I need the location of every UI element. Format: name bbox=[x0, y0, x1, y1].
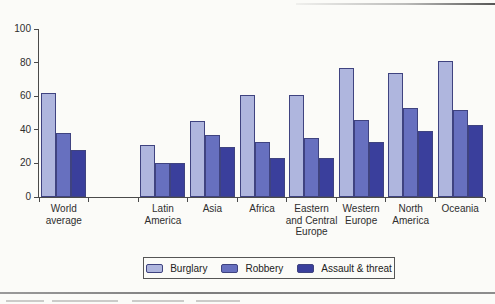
bar-assault-threat-oceania bbox=[468, 125, 483, 197]
bar-robbery-north-america bbox=[403, 108, 418, 197]
bar-assault-threat-western-europe bbox=[369, 142, 384, 197]
bar-robbery-eastern-and-central-europe bbox=[304, 138, 319, 197]
scan-artifact-top bbox=[296, 3, 495, 5]
x-axis-tick bbox=[237, 198, 238, 202]
x-axis-tick bbox=[39, 198, 40, 202]
bar-burglary-oceania bbox=[438, 61, 453, 197]
bar-robbery-world-average bbox=[56, 133, 71, 197]
legend-label: Robbery bbox=[245, 263, 283, 274]
legend-entry-assault-threat: Assault & threat bbox=[297, 263, 392, 274]
bar-robbery-western-europe bbox=[354, 120, 369, 197]
x-axis-tick bbox=[286, 198, 287, 202]
cropped-caption-artifact bbox=[6, 300, 44, 302]
legend: BurglaryRobberyAssault & threat bbox=[143, 257, 395, 279]
bottom-rule bbox=[0, 292, 495, 294]
x-axis-label-line: America bbox=[127, 215, 199, 227]
cropped-caption-artifact bbox=[196, 300, 240, 302]
bar-chart-figure: 020406080100WorldaverageLatinAmericaAsia… bbox=[0, 0, 495, 304]
x-axis-label-world-average: Worldaverage bbox=[28, 203, 100, 226]
cropped-caption-artifact bbox=[52, 300, 118, 302]
y-axis-tick-label: 60 bbox=[0, 91, 31, 101]
x-axis-tick bbox=[435, 198, 436, 202]
bar-assault-threat-north-america bbox=[418, 131, 433, 197]
bar-assault-threat-africa bbox=[270, 158, 285, 197]
bar-robbery-oceania bbox=[453, 110, 468, 197]
legend-label: Burglary bbox=[170, 263, 207, 274]
legend-label: Assault & threat bbox=[321, 263, 392, 274]
bar-burglary-world-average bbox=[41, 93, 56, 197]
x-axis-tick bbox=[485, 198, 486, 202]
legend-entry-burglary: Burglary bbox=[146, 263, 207, 274]
x-axis-tick bbox=[88, 198, 89, 202]
x-axis-label-line: average bbox=[28, 215, 100, 227]
x-axis-tick bbox=[336, 198, 337, 202]
x-axis-label-oceania: Oceania bbox=[424, 203, 495, 215]
y-axis-tick-label: 0 bbox=[0, 192, 31, 202]
bar-burglary-eastern-and-central-europe bbox=[289, 95, 304, 197]
y-axis-tick-label: 80 bbox=[0, 58, 31, 68]
y-axis-tick bbox=[34, 163, 39, 164]
bar-burglary-north-america bbox=[388, 73, 403, 197]
bar-robbery-asia bbox=[205, 135, 220, 197]
bar-assault-threat-world-average bbox=[71, 150, 86, 197]
y-axis-tick bbox=[34, 129, 39, 130]
cropped-caption-artifact bbox=[132, 300, 184, 302]
x-axis-label-line: America bbox=[375, 215, 447, 227]
bar-burglary-western-europe bbox=[339, 68, 354, 197]
bar-burglary-africa bbox=[240, 95, 255, 197]
x-axis-label-line: Oceania bbox=[424, 203, 495, 215]
bar-assault-threat-eastern-and-central-europe bbox=[319, 158, 334, 197]
legend-swatch-assault-threat bbox=[297, 264, 314, 273]
y-axis-tick bbox=[34, 29, 39, 30]
x-axis-tick bbox=[187, 198, 188, 202]
x-axis-label-line: Europe bbox=[276, 226, 348, 238]
bar-assault-threat-asia bbox=[220, 147, 235, 197]
y-axis-tick-label: 20 bbox=[0, 158, 31, 168]
legend-swatch-burglary bbox=[146, 264, 163, 273]
y-axis-tick bbox=[34, 62, 39, 63]
y-axis-tick-label: 40 bbox=[0, 125, 31, 135]
y-axis-tick bbox=[34, 96, 39, 97]
bar-burglary-asia bbox=[190, 121, 205, 197]
bar-burglary-latin-america bbox=[140, 145, 155, 197]
bar-robbery-latin-america bbox=[155, 163, 170, 197]
legend-entry-robbery: Robbery bbox=[221, 263, 283, 274]
x-axis-tick bbox=[138, 198, 139, 202]
legend-swatch-robbery bbox=[221, 264, 238, 273]
bar-robbery-africa bbox=[255, 142, 270, 197]
y-axis-tick-label: 100 bbox=[0, 24, 31, 34]
x-axis-tick bbox=[385, 198, 386, 202]
bar-assault-threat-latin-america bbox=[170, 163, 185, 197]
x-axis-label-line: World bbox=[28, 203, 100, 215]
plot-area: 020406080100WorldaverageLatinAmericaAsia… bbox=[38, 29, 485, 198]
